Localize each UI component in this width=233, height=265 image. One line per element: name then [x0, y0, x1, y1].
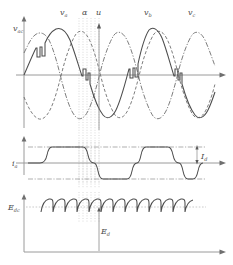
overlap-angle-label: u [96, 8, 101, 17]
figure-background [0, 0, 233, 265]
waveform-figure: vac va vb vc α u ia [0, 0, 233, 265]
firing-angle-label: α [82, 8, 88, 17]
waveform-svg: vac va vb vc α u ia [0, 0, 233, 265]
